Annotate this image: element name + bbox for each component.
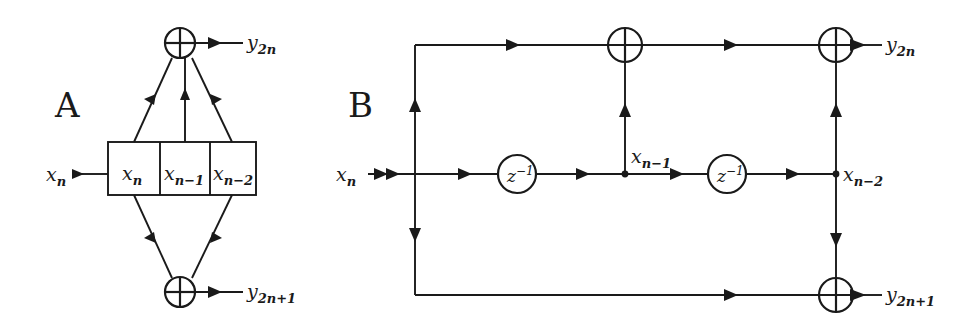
panel-b-input-label: xn xyxy=(336,163,356,189)
panel-a-output-bottom-wire xyxy=(195,286,243,298)
diagram-svg: A xn xn xn−1 xn−2 xyxy=(0,0,978,327)
figure-canvas: A xn xn xn−1 xn−2 xyxy=(0,0,978,327)
panel-b: B xn xyxy=(336,28,935,312)
panel-a-output-y2n-label: y2n xyxy=(246,31,276,57)
node-xn-1-label: xn−1 xyxy=(631,145,671,171)
panel-b-letter: B xyxy=(348,85,373,125)
panel-b-xn1-up-branch xyxy=(619,62,631,174)
panel-b-left-branch xyxy=(409,45,421,295)
panel-b-output-y2n1-label: y2n+1 xyxy=(885,283,935,309)
panel-b-output-bottom-wire xyxy=(850,289,882,301)
panel-a-output-top-wire xyxy=(195,37,243,49)
panel-a-input-label: xn xyxy=(46,163,66,189)
panel-b-xn2-up-branch xyxy=(830,62,842,174)
node-xn-2-label: xn−2 xyxy=(843,163,883,189)
node-xn-2-dot xyxy=(833,171,840,178)
panel-b-input-arrow xyxy=(374,168,388,180)
panel-b-adder-top-right xyxy=(819,28,853,62)
panel-b-main-path xyxy=(368,168,836,180)
panel-a-top-branches xyxy=(134,58,232,142)
panel-b-adder-top-mid xyxy=(608,28,642,62)
panel-b-xn2-down-branch xyxy=(830,174,842,278)
panel-b-output-y2n-label: y2n xyxy=(885,33,915,59)
panel-b-top-feed xyxy=(415,39,608,51)
panel-a-input-wire xyxy=(72,169,108,179)
panel-a: A xn xn xn−1 xn−2 xyxy=(46,28,296,307)
panel-b-top-mid-to-right xyxy=(642,39,819,51)
panel-a-adder-top xyxy=(165,28,195,58)
panel-b-bottom-feed xyxy=(415,289,819,301)
panel-a-output-y2n1-label: y2n+1 xyxy=(246,280,296,306)
node-xn-1-dot xyxy=(622,171,629,178)
panel-a-bottom-branches xyxy=(134,195,232,278)
panel-a-adder-bottom xyxy=(165,277,195,307)
panel-b-adder-bottom-right xyxy=(819,278,853,312)
panel-b-output-top-wire xyxy=(850,39,882,51)
panel-a-letter: A xyxy=(54,85,80,125)
